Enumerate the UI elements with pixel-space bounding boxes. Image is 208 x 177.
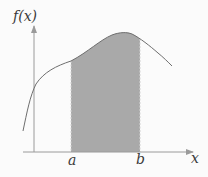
shaded-area <box>71 33 140 152</box>
upper-bound-label: b <box>136 152 145 166</box>
y-axis-label: f(x) <box>13 9 37 23</box>
lower-bound-label: a <box>68 153 76 167</box>
integral-diagram <box>0 0 208 177</box>
x-axis-label: x <box>191 151 199 165</box>
